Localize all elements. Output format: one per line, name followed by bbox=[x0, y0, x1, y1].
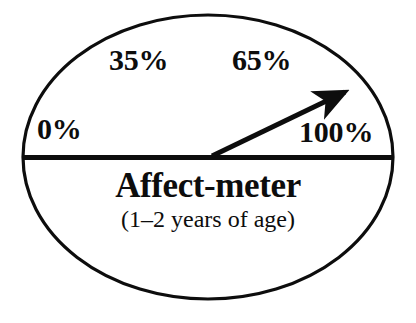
gauge-title: Affect-meter bbox=[0, 168, 416, 203]
gauge-subtitle: (1–2 years of age) bbox=[0, 207, 416, 231]
gauge-label-65-percent: 65% bbox=[232, 45, 291, 75]
gauge-label-0-percent: 0% bbox=[37, 114, 82, 144]
gauge-label-100-percent: 100% bbox=[299, 117, 373, 147]
affect-meter-figure: 0% 35% 65% 100% Affect-meter (1–2 years … bbox=[0, 0, 416, 323]
gauge-label-35-percent: 35% bbox=[109, 45, 168, 75]
gauge-graphics bbox=[0, 0, 416, 323]
